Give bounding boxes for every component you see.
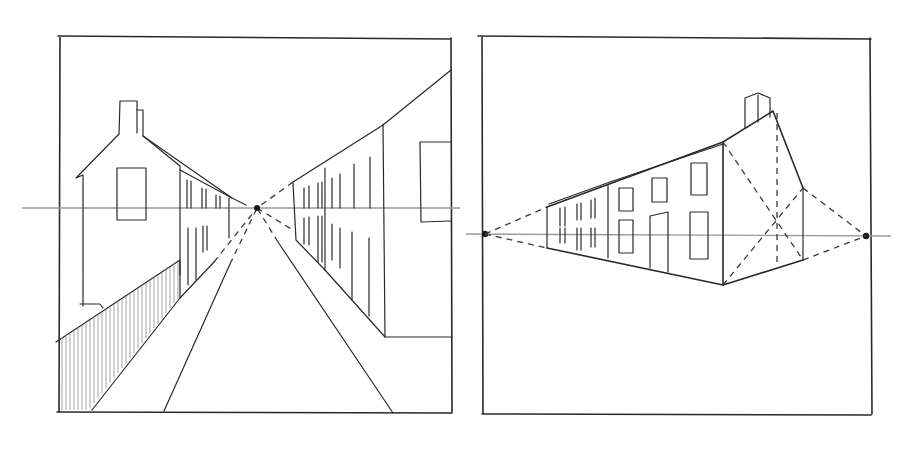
one-point-perspective-panel <box>22 36 460 413</box>
gable-house <box>76 101 246 308</box>
terrace-house <box>547 93 803 285</box>
right-frame <box>478 36 872 415</box>
left-vanishing-point <box>254 205 260 211</box>
row-houses-right <box>257 70 452 337</box>
two-point-perspective-panel <box>466 36 891 415</box>
perspective-sketches <box>0 0 909 452</box>
fence <box>56 260 180 410</box>
left-frame <box>57 36 452 413</box>
road <box>164 208 393 413</box>
right-horizon-line <box>466 234 891 236</box>
